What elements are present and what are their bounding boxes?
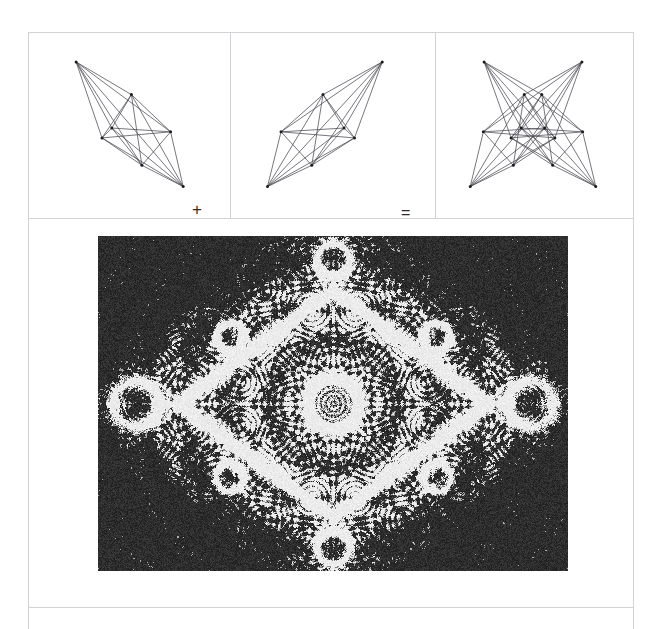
- figure-page: + =: [0, 0, 661, 629]
- second-graph-svg: [231, 33, 436, 217]
- moire-plate: [98, 236, 568, 571]
- superposed-graph-svg: [436, 33, 633, 217]
- panel-first-graph: +: [29, 33, 231, 218]
- figure-frame-tail-right: [633, 607, 634, 629]
- equation-row: + =: [29, 33, 633, 218]
- clipped-header-text: [46, 0, 49, 2]
- plus-operator: +: [192, 201, 202, 218]
- panel-second-graph: =: [231, 33, 436, 218]
- first-graph-svg: [29, 33, 231, 217]
- figure-frame-bottom-rule: [28, 607, 634, 608]
- panel-superposed-graph: [436, 33, 633, 218]
- figure-frame-tail-left: [28, 607, 29, 629]
- equation-row-divider: [29, 218, 633, 219]
- moire-canvas: [98, 236, 568, 571]
